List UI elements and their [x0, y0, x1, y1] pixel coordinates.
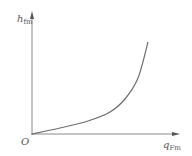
origin-label: O [21, 136, 29, 147]
chart: hfm qFm O [0, 0, 192, 156]
x-axis-label: qFm [163, 139, 181, 152]
curve [32, 42, 148, 134]
y-axis-label: hfm [17, 13, 33, 26]
x-axis-arrow-icon [172, 132, 180, 136]
